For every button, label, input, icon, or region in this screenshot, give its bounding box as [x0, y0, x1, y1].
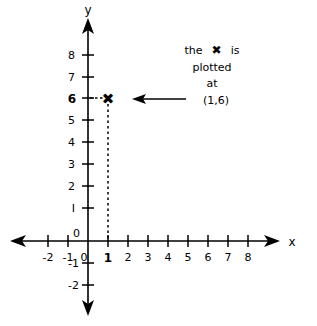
x-tick-label-3: 3: [145, 251, 152, 264]
y-tick-label-7: 7: [68, 71, 75, 84]
x-tick-label-neg2: -2: [43, 251, 54, 264]
y-tick-label-8: 8: [68, 49, 75, 62]
x-axis-label: x: [288, 235, 295, 249]
x-tick-label-4: 4: [165, 251, 172, 264]
x-origin-label: 0: [81, 251, 88, 264]
annotation-line-2: plotted: [192, 61, 231, 74]
x-tick-label-1: 1: [104, 251, 112, 265]
y-tick-label-neg2: -2: [68, 279, 79, 292]
y-tick-label-6: 6: [68, 92, 76, 106]
annotation-line-3: at: [206, 77, 218, 90]
annotation-coordinate-pair: (1,6): [203, 94, 229, 107]
x-tick-label-2: 2: [125, 251, 132, 264]
y-tick-label-3: 3: [68, 158, 75, 171]
annotation-line-1-prefix: the: [184, 44, 202, 57]
annotation-line-1-suffix: is: [231, 44, 240, 57]
annotation-x-glyph-icon: ✖: [212, 43, 222, 57]
y-tick-label-2: 2: [68, 180, 75, 193]
x-tick-label-5: 5: [185, 251, 192, 264]
y-origin-label: 0: [73, 227, 80, 240]
annotation-line-1: the ✖ is: [184, 39, 239, 58]
y-axis-label: y: [84, 3, 91, 17]
y-tick-label-neg1: -1: [68, 257, 79, 270]
coordinate-plane-figure: -2 -1 0 1 2 3 4 5 6 7 8 8 7 6 5 4 3 2 I …: [0, 0, 317, 326]
plotted-point-marker[interactable]: ✖: [102, 90, 115, 108]
x-tick-label-8: 8: [245, 251, 252, 264]
x-tick-label-6: 6: [205, 251, 212, 264]
x-tick-label-7: 7: [225, 251, 232, 264]
y-tick-label-4: 4: [68, 136, 75, 149]
y-tick-label-5: 5: [68, 114, 75, 127]
coordinate-plane-svg: -2 -1 0 1 2 3 4 5 6 7 8 8 7 6 5 4 3 2 I …: [0, 0, 317, 326]
y-tick-label-1: I: [72, 202, 75, 215]
